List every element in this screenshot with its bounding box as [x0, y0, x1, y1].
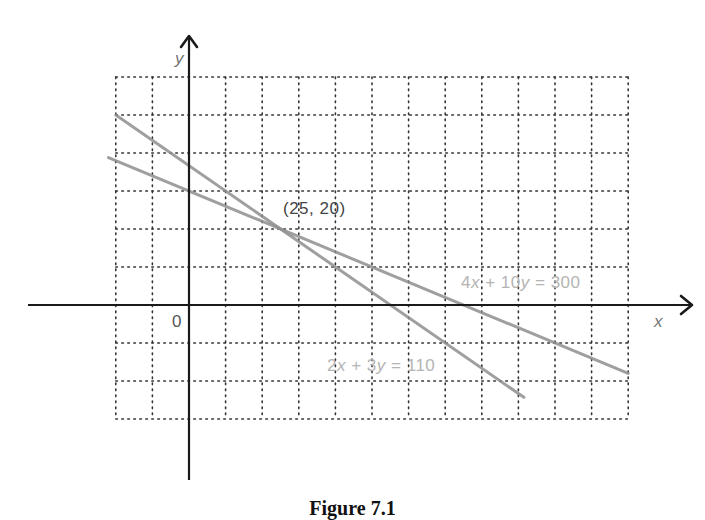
eq2-equals: = [530, 273, 551, 292]
equation-label-2x-3y: 2x + 3y = 110 [327, 357, 435, 374]
axes [28, 36, 692, 480]
eq1-y: y [377, 356, 386, 375]
eq1-plus: + [346, 356, 367, 375]
origin-label: 0 [172, 313, 181, 330]
eq2-x: x [471, 273, 480, 292]
equation-label-4x-10y: 4x + 10y = 300 [461, 274, 581, 291]
eq1-equals: = [386, 356, 407, 375]
eq2-c: 300 [551, 273, 581, 292]
x-axis-label: x [654, 313, 663, 330]
eq2-b: 10 [501, 273, 521, 292]
figure-caption: Figure 7.1 [0, 497, 705, 520]
eq2-y: y [521, 273, 530, 292]
eq2-a: 4 [461, 273, 471, 292]
eq1-a: 2 [327, 356, 337, 375]
y-axis-label: y [175, 50, 184, 67]
eq1-x: x [337, 356, 346, 375]
intersection-label: (25, 20) [283, 200, 346, 217]
eq1-c: 110 [407, 356, 436, 375]
eq2-plus: + [480, 273, 501, 292]
equation-lines [108, 115, 628, 397]
eq1-b: 3 [367, 356, 377, 375]
